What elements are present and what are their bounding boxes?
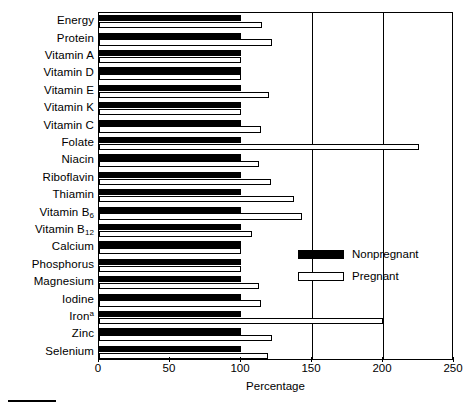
bar-nonpregnant [99, 67, 241, 73]
y-axis-label-phosphorus: Phosphorus [32, 258, 94, 270]
x-tick-mark-150 [311, 357, 312, 362]
bar-pregnant [99, 161, 259, 167]
bar-chart: EnergyProteinVitamin AVitamin DVitamin E… [0, 0, 475, 410]
bar-nonpregnant [99, 85, 241, 91]
y-axis-label-iodine: Iodine [62, 293, 94, 305]
bar-row [99, 187, 452, 204]
y-axis-label-folate: Folate [61, 136, 94, 148]
y-axis-label-magnesium: Magnesium [34, 275, 94, 287]
x-tick-label-100: 100 [230, 362, 249, 375]
bar-row [99, 30, 452, 47]
bar-pregnant [99, 74, 241, 80]
bar-nonpregnant [99, 154, 241, 160]
bar-pregnant [99, 318, 383, 324]
bar-row [99, 326, 452, 343]
bar-nonpregnant [99, 294, 241, 300]
bar-pregnant [99, 213, 302, 219]
bar-nonpregnant [99, 120, 241, 126]
x-tick-label-200: 200 [372, 362, 391, 375]
bar-nonpregnant [99, 50, 241, 56]
bar-pregnant [99, 300, 261, 306]
bar-pregnant [99, 22, 262, 28]
bar-pregnant [99, 39, 272, 45]
bar-pregnant [99, 196, 294, 202]
x-axis-ticks: 050100150200250 [98, 362, 453, 378]
x-tick-mark-50 [169, 357, 170, 362]
bar-pregnant [99, 179, 271, 185]
bar-row [99, 117, 452, 134]
bar-pregnant [99, 126, 261, 132]
x-tick-mark-200 [382, 357, 383, 362]
bar-row [99, 152, 452, 169]
y-axis-label-vitamin-e: Vitamin E [44, 84, 94, 96]
y-axis-label-selenium: Selenium [45, 345, 94, 357]
bar-nonpregnant [99, 276, 241, 282]
bar-row [99, 100, 452, 117]
y-axis-label-riboflavin: Riboflavin [43, 171, 95, 183]
bar-pregnant [99, 144, 419, 150]
y-axis-label-vitamin-k: Vitamin K [44, 101, 94, 113]
bar-nonpregnant [99, 259, 241, 265]
bar-row [99, 135, 452, 152]
bar-nonpregnant [99, 328, 241, 334]
bar-nonpregnant [99, 207, 241, 213]
legend-item-nonpregnant: Nonpregnant [298, 243, 438, 265]
y-axis-label-protein: Protein [57, 32, 94, 44]
bar-pregnant [99, 57, 241, 63]
bar-pregnant [99, 266, 241, 272]
x-axis-title: Percentage [98, 380, 453, 392]
y-axis-label-vitamin-b6: Vitamin B6 [40, 206, 94, 220]
bar-row [99, 291, 452, 308]
y-axis-label-vitamin-c: Vitamin C [43, 119, 94, 131]
bar-nonpregnant [99, 189, 241, 195]
y-axis-label-energy: Energy [57, 14, 94, 26]
plot-area [98, 12, 453, 360]
legend-swatch-nonpregnant-icon [298, 250, 344, 259]
bar-pregnant [99, 353, 268, 359]
bar-row [99, 309, 452, 326]
bar-pregnant [99, 335, 272, 341]
bar-nonpregnant [99, 33, 241, 39]
bar-nonpregnant [99, 102, 241, 108]
bar-rows [99, 13, 452, 359]
bar-row [99, 48, 452, 65]
bar-pregnant [99, 248, 241, 254]
bar-pregnant [99, 231, 252, 237]
x-tick-label-0: 0 [95, 362, 101, 375]
y-axis-label-iron: Irona [69, 310, 94, 324]
y-axis-label-vitamin-d: Vitamin D [43, 66, 94, 78]
x-tick-label-250: 250 [443, 362, 462, 375]
bar-nonpregnant [99, 224, 241, 230]
bar-nonpregnant [99, 346, 241, 352]
bar-pregnant [99, 283, 259, 289]
x-tick-label-50: 50 [163, 362, 176, 375]
bar-row [99, 222, 452, 239]
y-axis-label-niacin: Niacin [61, 153, 94, 165]
bar-nonpregnant [99, 172, 241, 178]
y-axis-label-thiamin: Thiamin [52, 188, 94, 200]
y-axis-label-calcium: Calcium [52, 240, 94, 252]
legend-item-pregnant: Pregnant [298, 265, 438, 287]
bar-pregnant [99, 109, 241, 115]
legend-swatch-pregnant-icon [298, 272, 344, 281]
bar-nonpregnant [99, 241, 241, 247]
bar-row [99, 65, 452, 82]
x-tick-mark-0 [98, 357, 99, 362]
footnote-divider [8, 400, 56, 402]
bar-nonpregnant [99, 137, 241, 143]
bar-nonpregnant [99, 15, 241, 21]
bar-row [99, 13, 452, 30]
legend-label-pregnant: Pregnant [352, 270, 399, 282]
y-axis-label-vitamin-b12: Vitamin B12 [35, 223, 94, 237]
bar-row [99, 83, 452, 100]
bar-row [99, 170, 452, 187]
x-tick-label-150: 150 [301, 362, 320, 375]
bar-row [99, 344, 452, 361]
y-axis-labels: EnergyProteinVitamin AVitamin DVitamin E… [0, 12, 94, 360]
y-axis-label-vitamin-a: Vitamin A [45, 49, 94, 61]
bar-row [99, 204, 452, 221]
bar-nonpregnant [99, 311, 241, 317]
chart-legend: Nonpregnant Pregnant [298, 243, 438, 287]
x-tick-mark-100 [240, 357, 241, 362]
x-tick-mark-250 [453, 357, 454, 362]
